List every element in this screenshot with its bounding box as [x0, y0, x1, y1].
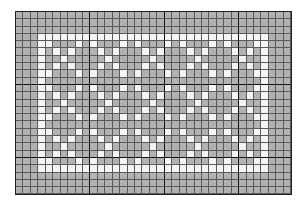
pattern-cell: [187, 100, 194, 107]
pattern-cell: [142, 100, 149, 107]
pattern-cell: [202, 12, 209, 19]
pattern-cell: [187, 70, 194, 77]
pattern-cell: [23, 34, 30, 41]
pattern-cell: [187, 173, 194, 180]
pattern-cell: [217, 180, 224, 187]
pattern-cell: [172, 173, 179, 180]
pattern-cell: [195, 78, 202, 85]
pattern-cell: [46, 100, 53, 107]
pattern-cell: [247, 173, 254, 180]
pattern-cell: [224, 48, 231, 55]
pattern-cell: [23, 136, 30, 143]
pattern-cell: [276, 107, 283, 114]
pattern-cell: [269, 78, 276, 85]
pattern-cell-filled: [180, 129, 187, 136]
pattern-cell: [217, 56, 224, 63]
pattern-cell: [61, 92, 68, 99]
pattern-cell: [209, 151, 216, 158]
pattern-cell-filled: [142, 165, 149, 172]
pattern-cell: [232, 114, 239, 121]
pattern-cell-filled: [224, 70, 231, 77]
pattern-cell: [83, 85, 90, 92]
pattern-cell: [276, 19, 283, 26]
pattern-cell: [276, 56, 283, 63]
pattern-cell-filled: [38, 136, 45, 143]
pattern-cell: [232, 70, 239, 77]
pattern-cell: [98, 27, 105, 34]
pattern-cell: [217, 41, 224, 48]
pattern-cell: [224, 100, 231, 107]
pattern-cell: [239, 180, 246, 187]
pattern-cell: [76, 151, 83, 158]
pattern-cell: [16, 165, 23, 172]
pattern-cell: [120, 92, 127, 99]
pattern-cell: [135, 27, 142, 34]
pattern-cell: [276, 187, 283, 194]
pattern-cell-filled: [224, 158, 231, 165]
pattern-cell: [276, 12, 283, 19]
pattern-cell: [261, 187, 268, 194]
pattern-cell-filled: [142, 48, 149, 55]
pattern-cell-filled: [224, 114, 231, 121]
pattern-cell-filled: [261, 143, 268, 150]
pattern-cell-filled: [150, 100, 157, 107]
pattern-cell-filled: [202, 92, 209, 99]
pattern-cell-filled: [232, 107, 239, 114]
pattern-cell-filled: [247, 136, 254, 143]
pattern-cell: [172, 41, 179, 48]
pattern-cell: [187, 114, 194, 121]
pattern-cell: [165, 143, 172, 150]
pattern-cell: [120, 100, 127, 107]
pattern-cell: [128, 114, 135, 121]
pattern-cell: [209, 12, 216, 19]
pattern-cell: [142, 180, 149, 187]
pattern-cell: [53, 85, 60, 92]
pattern-cell: [31, 158, 38, 165]
pattern-cell: [247, 100, 254, 107]
pattern-cell: [232, 41, 239, 48]
pattern-cell: [16, 143, 23, 150]
pattern-cell: [276, 85, 283, 92]
pattern-cell: [46, 92, 53, 99]
pattern-cell: [128, 136, 135, 143]
pattern-cell: [120, 187, 127, 194]
pattern-cell-filled: [120, 158, 127, 165]
pattern-cell: [83, 78, 90, 85]
pattern-cell-filled: [98, 151, 105, 158]
pattern-cell-filled: [261, 114, 268, 121]
pattern-cell: [247, 121, 254, 128]
pattern-cell-filled: [187, 92, 194, 99]
pattern-cell: [276, 173, 283, 180]
pattern-cell: [157, 70, 164, 77]
pattern-cell-filled: [261, 34, 268, 41]
pattern-cell: [105, 129, 112, 136]
pattern-cell-filled: [261, 78, 268, 85]
pattern-cell: [76, 180, 83, 187]
pattern-cell: [195, 92, 202, 99]
pattern-cell: [31, 143, 38, 150]
pattern-cell: [157, 85, 164, 92]
pattern-cell: [16, 173, 23, 180]
pattern-cell-filled: [157, 136, 164, 143]
pattern-cell: [31, 92, 38, 99]
pattern-cell-filled: [232, 48, 239, 55]
pattern-cell: [269, 19, 276, 26]
pattern-cell: [269, 92, 276, 99]
pattern-cell: [68, 56, 75, 63]
pattern-cell: [83, 173, 90, 180]
pattern-cell: [83, 114, 90, 121]
pattern-cell: [16, 151, 23, 158]
pattern-cell: [113, 121, 120, 128]
pattern-cell-filled: [142, 63, 149, 70]
pattern-cell: [209, 92, 216, 99]
pattern-cell: [150, 114, 157, 121]
pattern-cell-filled: [53, 136, 60, 143]
pattern-cell: [53, 41, 60, 48]
pattern-cell: [172, 63, 179, 70]
pattern-cell: [247, 85, 254, 92]
pattern-cell: [128, 85, 135, 92]
pattern-cell-filled: [261, 92, 268, 99]
pattern-cell: [128, 151, 135, 158]
pattern-cell: [113, 27, 120, 34]
pattern-cell: [195, 173, 202, 180]
